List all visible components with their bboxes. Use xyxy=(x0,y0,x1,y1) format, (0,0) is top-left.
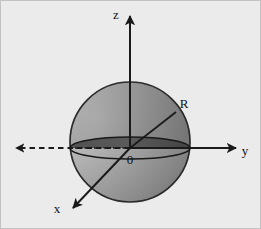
sphere-coordinate-figure: z y x R 0 xyxy=(0,0,261,229)
axis-label-y: y xyxy=(242,143,249,158)
axis-label-x: x xyxy=(54,201,61,216)
origin-label: 0 xyxy=(127,152,134,167)
axis-label-z: z xyxy=(113,7,119,22)
radius-label: R xyxy=(180,96,189,111)
figure-canvas: z y x R 0 xyxy=(0,0,261,229)
